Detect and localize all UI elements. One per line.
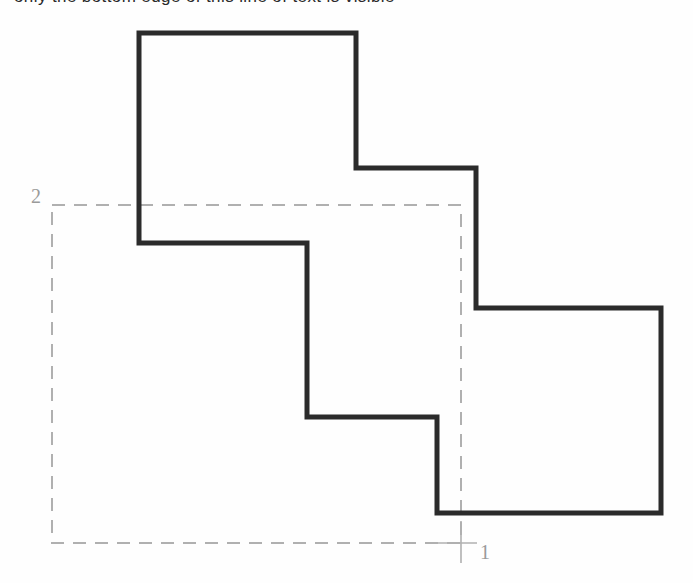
figure-canvas: only the bottom edge of this line of tex… [0,0,693,583]
axis-label-1: 1 [480,542,490,562]
axis-label-2: 2 [31,186,41,206]
dashed-reference-rectangle [52,205,461,543]
geometry-diagram [0,0,693,583]
staircase-polygon [139,33,661,513]
corner-crosshair-icon [433,521,477,563]
